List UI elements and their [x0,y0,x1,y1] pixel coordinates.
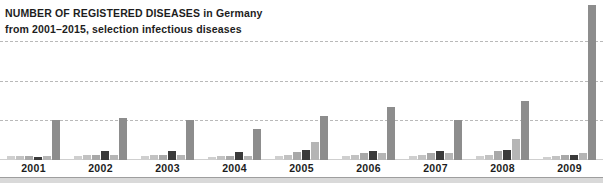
x-axis-tick-2004: 2004 [201,160,268,177]
bar-2001-series-6 [52,120,60,160]
bar-2008-series-6 [521,101,529,160]
x-axis-tick-2005: 2005 [268,160,335,177]
x-axis-tick-2008: 2008 [469,160,536,177]
bar-2009-series-5 [579,153,587,160]
bar-2007-series-3 [427,153,435,160]
bar-2007-series-6 [454,120,462,160]
x-axis-tick-2003: 2003 [134,160,201,177]
bar-group-2008 [469,0,536,160]
bar-group-2007 [402,0,469,160]
bar-group-2002 [67,0,134,160]
bottom-strip [0,177,603,183]
bar-2008-series-5 [512,139,520,160]
bar-2005-series-3 [293,152,301,160]
bar-2006-series-4 [369,151,377,160]
bar-groups-layer [0,0,603,160]
x-axis-tick-2001: 2001 [0,160,67,177]
bar-2007-series-5 [445,153,453,160]
bar-group-2006 [335,0,402,160]
bar-group-2004 [201,0,268,160]
bar-group-2001 [0,0,67,160]
bar-2007-series-4 [436,151,444,160]
bar-2002-series-4 [101,151,109,160]
x-axis-tick-2002: 2002 [67,160,134,177]
bar-group-2005 [268,0,335,160]
bar-2005-series-4 [302,150,310,160]
chart-root: NUMBER OF REGISTERED DISEASES in Germany… [0,0,603,183]
x-axis-labels: 200120022003200420052006200720082009 [0,160,603,177]
bar-2003-series-4 [168,151,176,160]
bar-2006-series-3 [360,153,368,160]
bar-group-2009 [536,0,603,160]
bar-2003-series-6 [186,120,194,160]
bar-2004-series-6 [253,129,261,160]
bar-2005-series-6 [320,116,328,160]
bar-2008-series-4 [503,150,511,160]
x-axis-tick-2006: 2006 [335,160,402,177]
x-axis-tick-2009: 2009 [536,160,603,177]
x-axis-tick-2007: 2007 [402,160,469,177]
bar-2008-series-3 [494,151,502,160]
bar-2006-series-5 [378,153,386,160]
bar-group-2003 [134,0,201,160]
bar-2002-series-6 [119,118,127,160]
plot-area [0,0,603,160]
bar-2005-series-5 [311,142,319,160]
bar-2006-series-6 [387,107,395,160]
bar-2009-series-6 [588,5,596,160]
bar-2004-series-4 [235,152,243,160]
